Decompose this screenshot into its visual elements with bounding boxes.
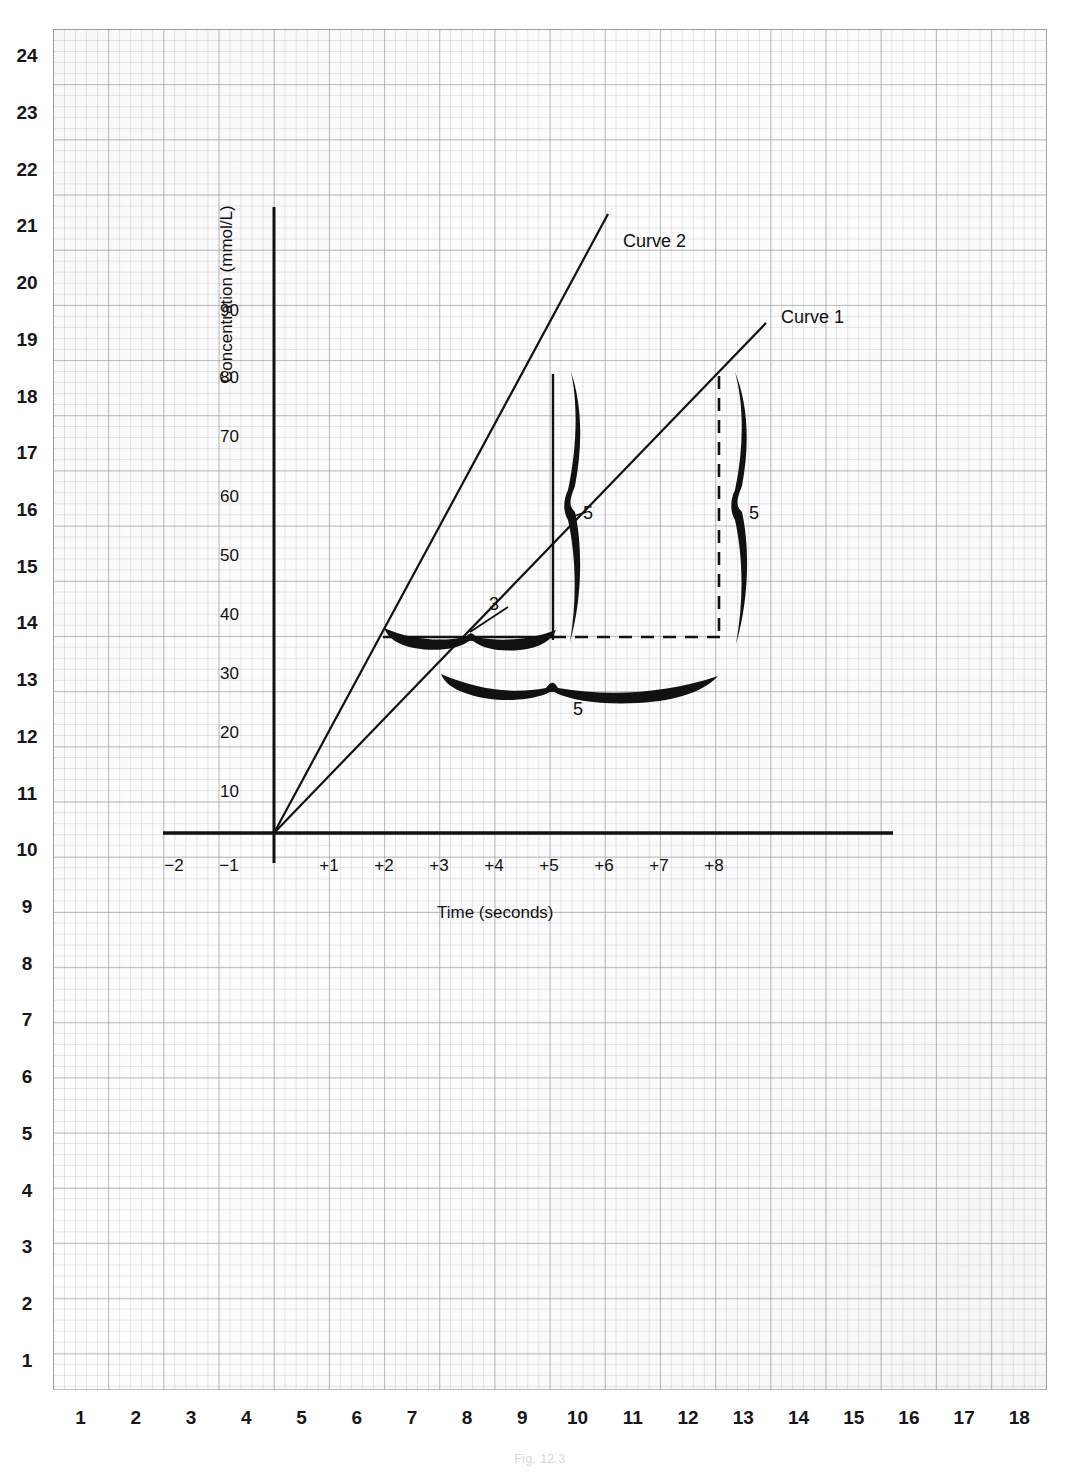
row-ruler-number: 21 [7,216,47,235]
graph-paper-grid [53,29,1047,1390]
row-ruler-number: 2 [7,1294,47,1313]
column-ruler-number: 16 [889,1408,929,1427]
row-ruler-number: 7 [7,1010,47,1029]
figure-page: 242322212019181716151413121110987654321 … [0,0,1080,1475]
row-ruler-number: 20 [7,273,47,292]
column-ruler-number: 5 [282,1408,322,1427]
column-ruler-number: 13 [723,1408,763,1427]
row-ruler-number: 11 [7,784,47,803]
column-ruler-number: 2 [116,1408,156,1427]
row-ruler-number: 23 [7,103,47,122]
column-ruler-number: 15 [834,1408,874,1427]
column-ruler-number: 10 [558,1408,598,1427]
column-ruler-number: 18 [999,1408,1039,1427]
row-ruler-number: 14 [7,613,47,632]
column-ruler-number: 14 [779,1408,819,1427]
column-ruler-number: 3 [171,1408,211,1427]
column-ruler-number: 4 [226,1408,266,1427]
row-ruler-number: 4 [7,1181,47,1200]
column-ruler-number: 1 [61,1408,101,1427]
column-ruler-number: 12 [668,1408,708,1427]
row-ruler-number: 5 [7,1124,47,1143]
column-ruler-number: 17 [944,1408,984,1427]
column-ruler-number: 6 [337,1408,377,1427]
row-ruler-number: 24 [7,46,47,65]
row-ruler-number: 22 [7,160,47,179]
column-ruler-number: 11 [613,1408,653,1427]
row-ruler-number: 10 [7,840,47,859]
row-ruler-number: 17 [7,443,47,462]
row-ruler-number: 6 [7,1067,47,1086]
row-ruler-number: 3 [7,1237,47,1256]
row-ruler-number: 13 [7,670,47,689]
row-ruler-number: 18 [7,387,47,406]
figure-caption: Fig. 12.3 [0,1452,1080,1466]
row-ruler-number: 19 [7,330,47,349]
row-ruler-number: 15 [7,557,47,576]
row-ruler-number: 9 [7,897,47,916]
row-ruler-number: 8 [7,954,47,973]
column-ruler-number: 7 [392,1408,432,1427]
column-ruler-number: 9 [502,1408,542,1427]
column-ruler-number: 8 [447,1408,487,1427]
row-ruler-number: 12 [7,727,47,746]
row-ruler-number: 16 [7,500,47,519]
row-ruler-number: 1 [7,1351,47,1370]
